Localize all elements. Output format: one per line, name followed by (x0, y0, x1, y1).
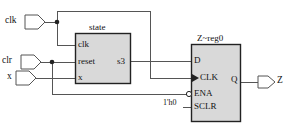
input-port-clk-label: clk (5, 15, 17, 25)
block-zreg0-title: Z~reg0 (197, 33, 223, 43)
block-zreg0-pin-ena: ENA (194, 88, 213, 98)
wire-clk-to-state-clk (57, 22, 75, 45)
block-state-pin-x: x (78, 72, 83, 82)
input-port-clr-label: clr (2, 55, 12, 65)
block-state-pin-s3: s3 (117, 56, 125, 66)
block-zreg0-pin-q: Q (231, 74, 238, 84)
junction-dot-clr (50, 60, 55, 65)
block-zreg0-pin-clk: CLK (200, 72, 218, 82)
output-port-z-shape[interactable] (258, 76, 275, 88)
block-zreg0-pin-sclr: SCLR (194, 101, 217, 111)
input-port-clr-shape[interactable] (21, 55, 41, 69)
schematic-canvas: clk clr x Z state clk reset x s3 Z~reg0 … (0, 0, 290, 136)
ena-inversion-bubble-icon (186, 91, 191, 96)
input-port-x-shape[interactable] (16, 71, 36, 85)
junction-dot-clk (55, 20, 60, 25)
output-port-z-label: Z (277, 75, 283, 85)
sclr-constant-label: 1'h0 (163, 98, 176, 107)
block-state-pin-clk: clk (78, 39, 89, 49)
block-state-title: state (89, 22, 106, 32)
block-state-pin-reset: reset (78, 56, 95, 66)
schematic-wiring-layer (0, 0, 290, 136)
input-port-x-label: x (7, 71, 12, 81)
block-zreg0-pin-d: D (194, 55, 201, 65)
input-port-clk-shape[interactable] (25, 15, 45, 29)
